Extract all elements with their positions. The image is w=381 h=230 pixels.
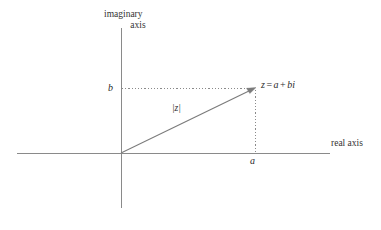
point-z-label: z=a+bi: [261, 79, 295, 90]
argand-diagram-canvas: imaginary axis real axis b a |z| z=a+bi: [0, 0, 381, 230]
imaginary-part-label-b: b: [108, 82, 113, 93]
modulus-vector: [121, 88, 256, 154]
real-part-label-a: a: [250, 155, 255, 166]
imaginary-axis-label-line2: axis: [104, 20, 162, 31]
point-z-equals: =: [265, 79, 274, 90]
imaginary-axis-label: imaginary axis: [104, 9, 162, 30]
point-z-imaginary-part: bi: [287, 79, 295, 90]
point-z-plus: +: [279, 79, 288, 90]
imaginary-axis-label-line1: imaginary: [104, 9, 162, 20]
complex-plane-svg: [0, 0, 381, 230]
point-z-real-part: a: [274, 79, 279, 90]
modulus-label: |z|: [172, 103, 181, 114]
real-axis-label: real axis: [331, 138, 363, 149]
